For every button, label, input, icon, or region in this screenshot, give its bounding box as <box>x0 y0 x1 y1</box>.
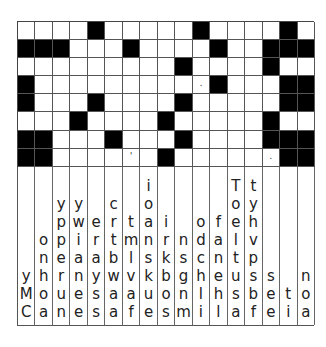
clue-letter[interactable]: a <box>144 213 153 231</box>
grid-cell[interactable] <box>140 22 157 40</box>
clue-letter[interactable]: n <box>39 249 49 267</box>
clue-letter[interactable]: b <box>249 285 259 303</box>
grid-cell[interactable] <box>228 58 245 76</box>
clue-letter[interactable]: s <box>92 303 100 321</box>
clue-letter[interactable]: i <box>164 213 168 231</box>
clue-letter[interactable]: y <box>57 195 66 213</box>
grid-cell[interactable] <box>53 22 70 40</box>
grid-cell[interactable] <box>105 22 122 40</box>
grid-cell[interactable]: . <box>263 149 280 167</box>
grid-cell[interactable] <box>18 22 35 40</box>
clue-letter[interactable]: y <box>249 195 258 213</box>
grid-cell[interactable] <box>175 112 192 130</box>
clue-letter[interactable]: a <box>92 249 101 267</box>
clue-letter[interactable]: n <box>214 249 224 267</box>
clue-letter[interactable]: C <box>21 303 31 321</box>
grid-cell[interactable] <box>245 22 262 40</box>
grid-cell[interactable] <box>105 76 122 94</box>
clue-letter[interactable]: s <box>180 249 188 267</box>
clue-letter[interactable]: u <box>144 285 154 303</box>
clue-letter[interactable]: m <box>124 231 139 249</box>
grid-cell[interactable] <box>263 76 280 94</box>
grid-cell[interactable] <box>88 131 105 149</box>
grid-cell[interactable] <box>158 131 175 149</box>
clue-letter[interactable]: b <box>161 267 171 285</box>
grid-cell[interactable] <box>193 149 210 167</box>
grid-cell[interactable] <box>298 112 315 130</box>
grid-cell[interactable] <box>70 94 87 112</box>
grid-cell[interactable]: . <box>193 76 210 94</box>
clue-letter[interactable]: e <box>91 213 100 231</box>
clue-letter[interactable]: r <box>93 231 99 249</box>
grid-cell[interactable] <box>175 40 192 58</box>
grid-cell[interactable] <box>88 112 105 130</box>
clue-letter[interactable]: e <box>266 285 275 303</box>
grid-cell[interactable] <box>210 149 227 167</box>
grid-cell[interactable] <box>158 58 175 76</box>
grid-cell[interactable] <box>70 131 87 149</box>
grid-cell[interactable] <box>175 22 192 40</box>
clue-letter[interactable]: f <box>216 213 221 231</box>
clue-letter[interactable]: a <box>214 231 223 249</box>
grid-cell[interactable] <box>53 58 70 76</box>
grid-cell[interactable] <box>53 76 70 94</box>
grid-cell[interactable] <box>140 76 157 94</box>
clue-letter[interactable]: m <box>176 303 191 321</box>
clue-letter[interactable]: h <box>214 285 224 303</box>
clue-letter[interactable]: v <box>249 231 258 249</box>
clue-letter[interactable]: e <box>74 303 83 321</box>
clue-letter[interactable]: s <box>267 267 275 285</box>
grid-cell[interactable] <box>123 112 140 130</box>
grid-cell[interactable] <box>210 112 227 130</box>
clue-letter[interactable]: o <box>301 285 310 303</box>
clue-letter[interactable]: y <box>22 267 31 285</box>
clue-letter[interactable]: h <box>249 213 259 231</box>
clue-letter[interactable]: r <box>58 267 64 285</box>
clue-letter[interactable]: M <box>20 285 33 303</box>
clue-letter[interactable]: a <box>126 285 135 303</box>
grid-cell[interactable] <box>88 76 105 94</box>
grid-cell[interactable] <box>18 58 35 76</box>
clue-letter[interactable]: o <box>39 285 48 303</box>
grid-cell[interactable] <box>193 112 210 130</box>
grid-cell[interactable] <box>158 40 175 58</box>
grid-cell[interactable] <box>70 76 87 94</box>
grid-cell[interactable] <box>18 112 35 130</box>
clue-letter[interactable]: a <box>301 303 310 321</box>
clue-letter[interactable]: a <box>109 285 118 303</box>
grid-cell[interactable] <box>123 58 140 76</box>
grid-cell[interactable] <box>158 94 175 112</box>
grid-cell[interactable] <box>158 22 175 40</box>
clue-letter[interactable]: t <box>111 231 117 249</box>
grid-cell[interactable] <box>88 149 105 167</box>
clue-letter[interactable]: r <box>163 231 169 249</box>
clue-letter[interactable]: e <box>74 285 83 303</box>
clue-letter[interactable]: b <box>109 249 119 267</box>
clue-letter[interactable]: k <box>162 249 171 267</box>
grid-cell[interactable] <box>175 149 192 167</box>
grid-cell[interactable] <box>210 131 227 149</box>
grid-cell[interactable] <box>263 94 280 112</box>
grid-cell[interactable] <box>228 76 245 94</box>
grid-cell[interactable] <box>193 40 210 58</box>
grid-cell[interactable] <box>105 94 122 112</box>
grid-cell[interactable] <box>298 58 315 76</box>
clue-letter[interactable]: n <box>179 231 189 249</box>
grid-cell[interactable] <box>88 58 105 76</box>
grid-cell[interactable] <box>228 94 245 112</box>
grid-cell[interactable] <box>70 22 87 40</box>
grid-cell[interactable] <box>105 112 122 130</box>
clue-letter[interactable]: o <box>39 231 48 249</box>
grid-cell[interactable] <box>228 22 245 40</box>
grid-cell[interactable]: ' <box>123 149 140 167</box>
clue-letter[interactable]: l <box>234 231 238 249</box>
clue-letter[interactable]: d <box>196 231 206 249</box>
grid-cell[interactable] <box>228 149 245 167</box>
grid-cell[interactable] <box>175 76 192 94</box>
clue-letter[interactable]: o <box>231 195 240 213</box>
grid-cell[interactable] <box>105 149 122 167</box>
clue-letter[interactable]: e <box>144 303 153 321</box>
grid-cell[interactable] <box>53 131 70 149</box>
clue-letter[interactable]: k <box>144 267 153 285</box>
clue-letter[interactable]: f <box>128 303 133 321</box>
